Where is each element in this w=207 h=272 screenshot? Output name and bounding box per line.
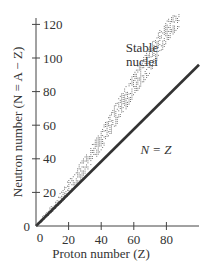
n-equals-z-line [36,65,199,226]
stable-label-line2: nuclei [126,54,158,69]
y-ticks: 20406080100120 [32,17,63,200]
svg-text:80: 80 [160,232,173,247]
n-equals-z-label: N = Z [139,142,172,157]
svg-text:80: 80 [43,84,56,99]
x-axis-title: Proton number (Z) [52,246,149,261]
svg-text:20: 20 [43,185,56,200]
svg-text:60: 60 [43,118,56,133]
y-axis-title: Neutron number (N = A − Z) [10,47,25,197]
stability-chart: 20406080100120 20406080 0 0 Proton numbe… [0,0,207,272]
y-origin-label: 0 [24,219,31,234]
svg-text:40: 40 [95,232,108,247]
x-origin-label: 0 [37,230,44,245]
svg-text:100: 100 [43,51,63,66]
svg-text:60: 60 [127,232,140,247]
svg-text:20: 20 [62,232,75,247]
svg-text:40: 40 [43,151,56,166]
stable-label-line1: Stable [126,40,159,55]
svg-text:120: 120 [43,17,63,32]
